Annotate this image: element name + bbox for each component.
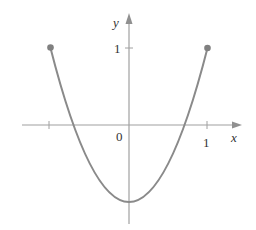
endpoint-left (47, 44, 54, 51)
origin-label: 0 (116, 129, 123, 144)
x-tick-label-1: 1 (203, 135, 210, 150)
endpoint-right (204, 45, 211, 52)
y-axis-arrow-icon (126, 13, 133, 24)
x-axis-label: x (230, 130, 237, 145)
x-axis-arrow-icon (232, 122, 242, 129)
y-tick-label-1: 1 (114, 41, 121, 56)
chart: y 1 0 1 x (0, 0, 256, 230)
y-axis-label: y (111, 15, 119, 30)
